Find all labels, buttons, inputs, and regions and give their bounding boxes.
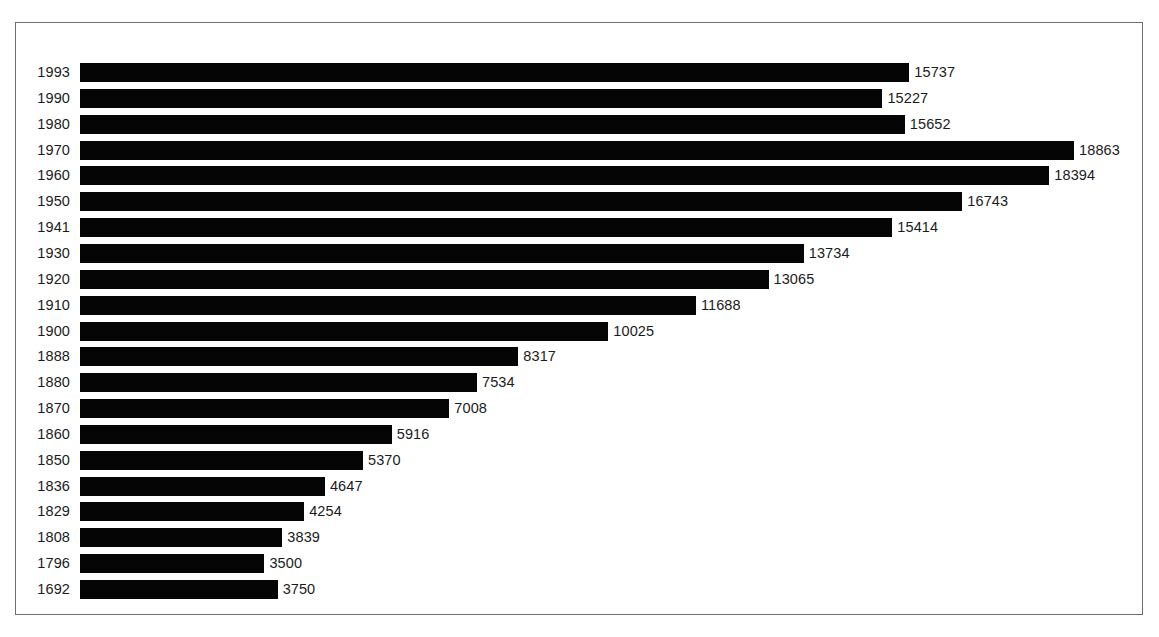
- bar: [80, 218, 892, 237]
- category-label-year: 1950: [16, 192, 70, 211]
- category-label-year: 1910: [16, 296, 70, 315]
- category-label-year: 1850: [16, 451, 70, 470]
- bar-value-label: 5916: [397, 425, 430, 444]
- bar: [80, 115, 905, 134]
- bar-chart-plot-area: 1993157371990152271980156521970188631960…: [16, 23, 1144, 616]
- bar-value-label: 3500: [269, 554, 302, 573]
- bar: [80, 192, 962, 211]
- bar-value-label: 7534: [482, 373, 515, 392]
- category-label-year: 1860: [16, 425, 70, 444]
- bar: [80, 166, 1049, 185]
- bar-value-label: 3839: [287, 528, 320, 547]
- bar: [80, 477, 325, 496]
- bar: [80, 89, 882, 108]
- bar: [80, 502, 304, 521]
- bar-value-label: 15227: [887, 89, 928, 108]
- chart-page: 1993157371990152271980156521970188631960…: [0, 0, 1159, 637]
- category-label-year: 1829: [16, 502, 70, 521]
- bar: [80, 399, 449, 418]
- category-label-year: 1880: [16, 373, 70, 392]
- bar-value-label: 4647: [330, 477, 363, 496]
- bar-value-label: 18394: [1054, 166, 1095, 185]
- bar-value-label: 15414: [897, 218, 938, 237]
- category-label-year: 1920: [16, 270, 70, 289]
- category-label-year: 1970: [16, 141, 70, 160]
- bar: [80, 322, 608, 341]
- category-label-year: 1796: [16, 554, 70, 573]
- bar: [80, 347, 518, 366]
- category-label-year: 1808: [16, 528, 70, 547]
- chart-frame-border: 1993157371990152271980156521970188631960…: [15, 22, 1143, 615]
- bar-value-label: 15737: [914, 63, 955, 82]
- bar-value-label: 8317: [523, 347, 556, 366]
- category-label-year: 1692: [16, 580, 70, 599]
- bar: [80, 580, 278, 599]
- bar-value-label: 15652: [910, 115, 951, 134]
- bar-value-label: 13734: [809, 244, 850, 263]
- bar: [80, 425, 392, 444]
- bar: [80, 63, 909, 82]
- category-label-year: 1870: [16, 399, 70, 418]
- bar: [80, 270, 769, 289]
- bar: [80, 554, 264, 573]
- bar: [80, 451, 363, 470]
- bar-value-label: 4254: [309, 502, 342, 521]
- bar-value-label: 10025: [613, 322, 654, 341]
- category-label-year: 1993: [16, 63, 70, 82]
- category-label-year: 1990: [16, 89, 70, 108]
- bar-value-label: 13065: [774, 270, 815, 289]
- bar-value-label: 7008: [454, 399, 487, 418]
- bar: [80, 244, 804, 263]
- bar-value-label: 18863: [1079, 141, 1120, 160]
- bar: [80, 528, 282, 547]
- category-label-year: 1980: [16, 115, 70, 134]
- category-label-year: 1930: [16, 244, 70, 263]
- category-label-year: 1960: [16, 166, 70, 185]
- bar-value-label: 11688: [701, 296, 741, 315]
- category-label-year: 1900: [16, 322, 70, 341]
- bar: [80, 141, 1074, 160]
- category-label-year: 1836: [16, 477, 70, 496]
- bar-value-label: 16743: [967, 192, 1008, 211]
- bar: [80, 296, 696, 315]
- category-label-year: 1941: [16, 218, 70, 237]
- bar: [80, 373, 477, 392]
- bar-value-label: 5370: [368, 451, 401, 470]
- bar-value-label: 3750: [283, 580, 316, 599]
- category-label-year: 1888: [16, 347, 70, 366]
